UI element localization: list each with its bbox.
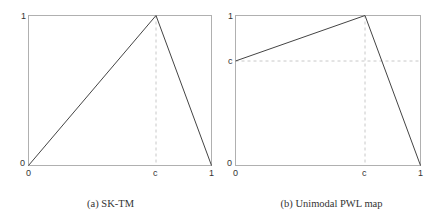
y-tick-1: 1 xyxy=(21,11,26,21)
chart-unimodal-pwl: 1 c 0 0 c 1 xyxy=(221,0,442,221)
x-tick-0: 0 xyxy=(233,168,238,178)
chart-sk-tm: 1 0 0 c 1 xyxy=(0,0,221,221)
x-tick-1: 1 xyxy=(418,168,423,178)
y-tick-1: 1 xyxy=(228,11,233,21)
x-tick-1: 1 xyxy=(209,168,214,178)
figure-a: 1 0 0 c 1 (a) SK-TM xyxy=(0,0,221,221)
y-tick-c: c xyxy=(228,56,233,66)
x-tick-0: 0 xyxy=(26,168,31,178)
figure-b: 1 c 0 0 c 1 (b) Unimodal PWL map xyxy=(221,0,442,221)
y-tick-0: 0 xyxy=(20,158,25,168)
caption-a: (a) SK-TM xyxy=(0,198,221,209)
map-curve xyxy=(236,16,421,166)
x-tick-c: c xyxy=(153,168,158,178)
x-tick-c: c xyxy=(362,168,367,178)
map-curve xyxy=(29,16,212,166)
y-tick-0: 0 xyxy=(227,158,232,168)
caption-b: (b) Unimodal PWL map xyxy=(221,198,442,209)
